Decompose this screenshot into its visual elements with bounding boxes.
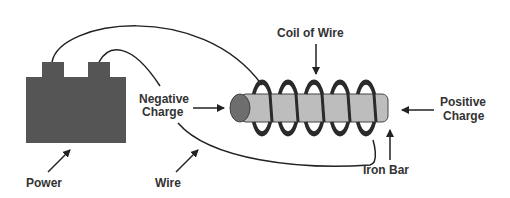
wire-top-outer <box>52 26 262 85</box>
label-negative-2: Charge <box>142 105 184 119</box>
label-wire: Wire <box>155 176 181 190</box>
arrow-wire <box>176 150 198 172</box>
label-positive-2: Charge <box>443 109 485 123</box>
electromagnet-diagram: Power Wire Negative Charge Coil of Wire … <box>0 0 510 198</box>
iron-bar-end <box>230 94 250 122</box>
arrow-power <box>48 150 70 172</box>
battery-body <box>26 77 126 143</box>
battery-terminal-left <box>42 62 64 78</box>
label-iron-bar: Iron Bar <box>363 163 409 177</box>
label-positive-1: Positive <box>440 95 486 109</box>
battery <box>26 62 126 143</box>
label-coil: Coil of Wire <box>277 26 344 40</box>
label-power: Power <box>26 176 62 190</box>
label-negative-1: Negative <box>139 92 189 106</box>
iron-bar <box>230 94 388 122</box>
battery-terminal-right <box>88 62 110 78</box>
